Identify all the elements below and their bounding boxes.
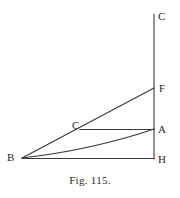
figure-caption: Fig. 115. bbox=[0, 174, 180, 186]
point-label-c-top: C bbox=[158, 11, 165, 22]
point-label-f: F bbox=[159, 83, 165, 94]
geometry-diagram bbox=[0, 0, 180, 198]
point-label-b: B bbox=[7, 152, 14, 163]
point-label-a: A bbox=[158, 124, 166, 135]
curve-path-ba bbox=[22, 129, 154, 158]
figure-115: C F A H B C Fig. 115. bbox=[0, 0, 180, 198]
point-label-h: H bbox=[158, 154, 166, 165]
point-label-c-mid: C bbox=[72, 120, 79, 131]
